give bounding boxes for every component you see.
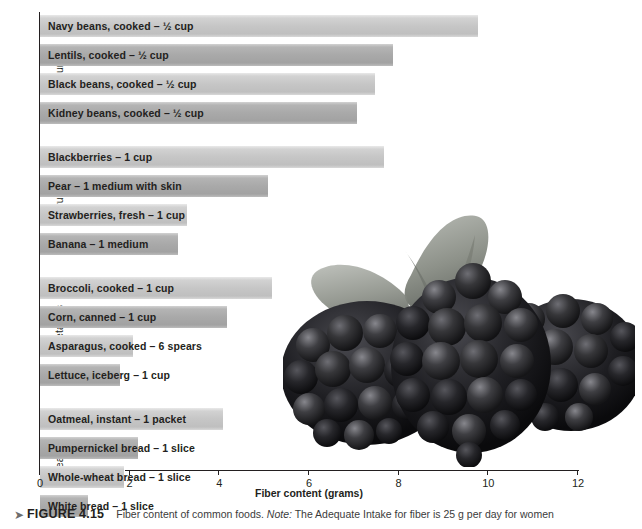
- figure-number: FIGURE 4.15: [27, 507, 104, 521]
- bar-group-fruits: Blackberries – 1 cupPear – 1 medium with…: [40, 146, 578, 255]
- bar-row[interactable]: Black beans, cooked – ½ cup: [40, 73, 578, 95]
- figure-note-word: Note:: [267, 508, 292, 520]
- bar-row[interactable]: Lentils, cooked – ½ cup: [40, 44, 578, 66]
- bar-label: Navy beans, cooked – ½ cup: [48, 15, 194, 37]
- bar-row[interactable]: Kidney beans, cooked – ½ cup: [40, 102, 578, 124]
- bar-row[interactable]: Banana – 1 medium: [40, 233, 578, 255]
- x-tick: [39, 470, 40, 475]
- chart-plot-area: LegumesNavy beans, cooked – ½ cupLentils…: [40, 12, 578, 470]
- bar-row[interactable]: Navy beans, cooked – ½ cup: [40, 15, 578, 37]
- figure-4-15: LegumesNavy beans, cooked – ½ cupLentils…: [0, 0, 642, 529]
- bar-label: Lettuce, iceberg – 1 cup: [48, 364, 170, 386]
- x-tick: [487, 470, 488, 475]
- bar-group-legumes: Navy beans, cooked – ½ cupLentils, cooke…: [40, 15, 578, 124]
- bar-row[interactable]: Pear – 1 medium with skin: [40, 175, 578, 197]
- bar-label: Asparagus, cooked – 6 spears: [48, 335, 202, 357]
- bar-row[interactable]: Broccoli, cooked – 1 cup: [40, 277, 578, 299]
- bar-row[interactable]: Strawberries, fresh – 1 cup: [40, 204, 578, 226]
- bar-label: Pear – 1 medium with skin: [48, 175, 182, 197]
- bar-row[interactable]: Lettuce, iceberg – 1 cup: [40, 364, 578, 386]
- bar-label: Blackberries – 1 cup: [48, 146, 152, 168]
- x-tick: [218, 470, 219, 475]
- bar-label: Oatmeal, instant – 1 packet: [48, 408, 186, 430]
- bar-label: Strawberries, fresh – 1 cup: [48, 204, 185, 226]
- bar-label: Corn, canned – 1 cup: [48, 306, 156, 328]
- bar-label: Banana – 1 medium: [48, 233, 148, 255]
- x-tick: [577, 470, 578, 475]
- bullet-marker-icon: ➤: [14, 508, 27, 522]
- bar-label: Black beans, cooked – ½ cup: [48, 73, 197, 95]
- bar-label: Lentils, cooked – ½ cup: [48, 44, 169, 66]
- bar-row[interactable]: Asparagus, cooked – 6 spears: [40, 335, 578, 357]
- figure-caption: ➤FIGURE 4.15Fiber content of common food…: [14, 507, 640, 522]
- bar-label: Kidney beans, cooked – ½ cup: [48, 102, 204, 124]
- bar-group-vegetables: Broccoli, cooked – 1 cupCorn, canned – 1…: [40, 277, 578, 386]
- bar-row[interactable]: Blackberries – 1 cup: [40, 146, 578, 168]
- bar-label: Broccoli, cooked – 1 cup: [48, 277, 174, 299]
- x-tick: [398, 470, 399, 475]
- bar-row[interactable]: Oatmeal, instant – 1 packet: [40, 408, 578, 430]
- bar-group-breads: Oatmeal, instant – 1 packetPumpernickel …: [40, 408, 578, 517]
- bar-row[interactable]: Pumpernickel bread – 1 slice: [40, 437, 578, 459]
- x-axis-title: Fiber content (grams): [40, 487, 578, 499]
- bar-row[interactable]: Corn, canned – 1 cup: [40, 306, 578, 328]
- figure-note-text: The Adequate Intake for fiber is 25 g pe…: [295, 508, 554, 520]
- x-tick: [129, 470, 130, 475]
- x-tick: [308, 470, 309, 475]
- figure-caption-text: Fiber content of common foods.: [116, 508, 264, 520]
- bar-label: Pumpernickel bread – 1 slice: [48, 437, 195, 459]
